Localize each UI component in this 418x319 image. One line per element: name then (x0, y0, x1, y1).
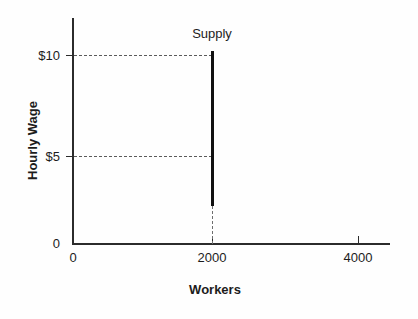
y-axis-title: Hourly Wage (25, 86, 40, 196)
labor-supply-chart: $10 $5 0 0 2000 4000 Supply Hourly Wage … (0, 0, 418, 319)
x-tick-label-2000: 2000 (182, 250, 242, 265)
wage-5-guide-line (74, 156, 212, 157)
supply-curve-extension (212, 206, 213, 244)
y-tick-label-0: 0 (0, 236, 60, 251)
y-tick-label-10: $10 (0, 48, 60, 63)
x-axis-title: Workers (140, 282, 290, 297)
x-axis-line (72, 243, 390, 245)
y-tick-10 (66, 55, 74, 56)
supply-curve-label: Supply (172, 26, 252, 41)
x-tick-label-4000: 4000 (328, 250, 388, 265)
x-tick-4000 (358, 236, 359, 244)
y-tick-5 (66, 156, 74, 157)
x-tick-label-0: 0 (43, 250, 103, 265)
y-axis-line (72, 18, 74, 245)
supply-curve (211, 51, 214, 206)
wage-10-guide-line (74, 55, 212, 56)
